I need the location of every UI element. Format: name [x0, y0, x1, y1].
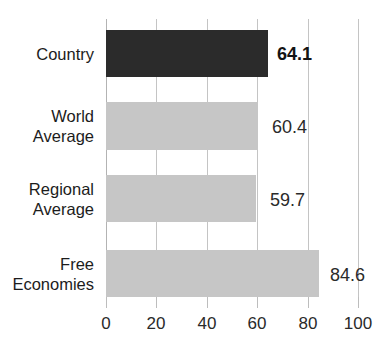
tick-mark-100 [358, 297, 359, 308]
bar-world-average [106, 102, 258, 150]
category-label-country: Country [0, 44, 94, 64]
tick-label-100: 100 [328, 313, 388, 335]
value-label-country: 64.1 [277, 44, 312, 64]
bar-free-economies [106, 250, 319, 297]
tick-mark-20 [156, 297, 157, 308]
plot-area [106, 19, 358, 307]
tick-mark-40 [207, 297, 208, 308]
tick-mark-60 [257, 297, 258, 308]
tick-mark-80 [308, 297, 309, 308]
value-label-free-economies: 84.6 [330, 265, 365, 285]
category-label-world-average: World Average [0, 106, 94, 146]
value-label-world-average: 60.4 [272, 117, 307, 137]
bar-regional-average [106, 175, 256, 222]
bar-country [106, 30, 268, 77]
tick-mark-0 [106, 297, 107, 308]
category-label-regional-average: Regional Average [0, 179, 94, 219]
chart-title-cropped [0, 0, 391, 11]
bar-chart: Country World Average Regional Average F… [0, 0, 391, 355]
category-label-free-economies: Free Economies [0, 254, 94, 294]
gridline-100 [358, 19, 359, 307]
value-label-regional-average: 59.7 [270, 190, 305, 210]
